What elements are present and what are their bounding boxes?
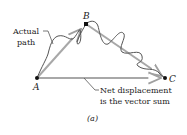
vector-ab [37,29,81,78]
point-c [163,76,167,80]
vector-bc [86,24,162,76]
actual-path-label-line1: Actual [12,27,39,36]
net-displacement-label-line1: Net displacement [100,86,172,95]
figure-caption: (a) [87,114,98,123]
actual-path-curve [37,21,165,78]
net-displacement-leader [84,78,99,90]
label-b: B [82,11,90,21]
label-c: C [169,74,176,84]
actual-path-label-line2: path [17,38,35,47]
displacement-diagram: A B C Actual path Net displacement is th… [0,0,187,135]
point-b [84,22,88,26]
point-a [35,76,39,80]
net-displacement-label-line2: is the vector sum [100,97,170,106]
label-a: A [32,82,40,92]
